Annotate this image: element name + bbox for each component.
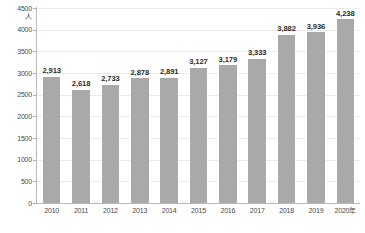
x-axis-labels: 2010201120122013201420152016201720182019… <box>37 206 360 220</box>
y-axis-tick-label: 4000 <box>2 26 32 33</box>
bar-slot: 3,333 <box>248 8 266 203</box>
bar-slot: 2,913 <box>43 8 61 203</box>
x-axis-tick-label: 2016 <box>211 206 244 215</box>
bar[interactable] <box>131 78 149 203</box>
bar[interactable] <box>278 35 296 203</box>
bar-value-label: 3,333 <box>239 49 275 57</box>
bar-slot: 2,733 <box>102 8 120 203</box>
x-axis-tick-label: 2018 <box>270 206 303 215</box>
bar-slot: 3,882 <box>278 8 296 203</box>
y-axis-tick-label: 1000 <box>2 156 32 163</box>
bar-slot: 3,936 <box>307 8 325 203</box>
y-axis-tick-label: 500 <box>2 178 32 185</box>
bar[interactable] <box>43 77 61 203</box>
y-axis-tick-label: 4500 <box>2 5 32 12</box>
x-axis-tick-label: 2019 <box>299 206 332 215</box>
y-axis-tick-label: 3500 <box>2 48 32 55</box>
bar-series: 2,9132,6182,7332,8782,8913,1273,1793,333… <box>37 8 360 203</box>
x-axis-tick-label: 2012 <box>94 206 127 215</box>
x-axis-tick-label: 2011 <box>64 206 97 215</box>
y-axis-tick-label: 0 <box>2 200 32 207</box>
bar-value-label: 3,936 <box>298 23 334 31</box>
x-axis-tick-label: 2010 <box>35 206 68 215</box>
x-axis-tick-label: 2014 <box>152 206 185 215</box>
bar-value-label: 4,238 <box>328 10 364 18</box>
y-axis-tick-label: 2500 <box>2 91 32 98</box>
y-axis-tick-label: 2000 <box>2 113 32 120</box>
x-axis-line <box>36 203 360 204</box>
bar[interactable] <box>190 68 208 204</box>
bar[interactable] <box>72 90 90 203</box>
bar-slot: 2,618 <box>72 8 90 203</box>
y-axis-unit-label: 人 <box>0 13 32 20</box>
bar-slot: 2,891 <box>160 8 178 203</box>
bar-slot: 4,238 <box>337 8 355 203</box>
bar-chart: 人 050010001500200025003000350040004500 2… <box>0 0 365 233</box>
bar[interactable] <box>102 85 120 203</box>
y-axis: 人 050010001500200025003000350040004500 <box>0 0 32 233</box>
bar-slot: 2,878 <box>131 8 149 203</box>
bar-value-label: 2,891 <box>151 68 187 76</box>
bar-slot: 3,127 <box>190 8 208 203</box>
bar[interactable] <box>160 78 178 203</box>
y-axis-tick-label: 3000 <box>2 70 32 77</box>
bar[interactable] <box>219 65 237 203</box>
bar-slot: 3,179 <box>219 8 237 203</box>
y-axis-tick-label: 1500 <box>2 135 32 142</box>
x-axis-tick-label: 2013 <box>123 206 156 215</box>
bar[interactable] <box>307 32 325 203</box>
x-axis-tick-label: 2017 <box>241 206 274 215</box>
bar-value-label: 2,913 <box>34 67 70 75</box>
x-axis-tick-label: 2020年 <box>329 206 362 215</box>
bar[interactable] <box>248 59 266 203</box>
x-axis-tick-label: 2015 <box>182 206 215 215</box>
bar[interactable] <box>337 19 355 203</box>
